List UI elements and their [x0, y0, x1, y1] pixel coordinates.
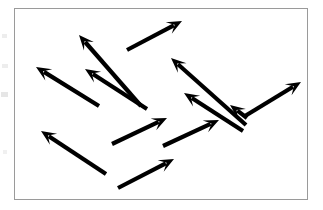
- arrow-up-right: [245, 82, 301, 116]
- arrow-shaft: [127, 25, 174, 50]
- arrow-shaft: [49, 136, 106, 174]
- arrow-shaft: [245, 87, 293, 116]
- arrow-up-right: [127, 21, 182, 50]
- arrow-shaft: [112, 122, 159, 144]
- arrow-shaft: [163, 124, 211, 146]
- arrow-up-left: [171, 58, 246, 125]
- arrow-up-right: [112, 118, 167, 144]
- arrow-up-left: [41, 131, 106, 174]
- arrow-up-right: [163, 120, 219, 146]
- arrow-field-canvas: [0, 0, 323, 210]
- figure-root: [0, 0, 323, 210]
- arrow-shaft: [118, 163, 166, 188]
- arrow-up-right: [118, 159, 174, 188]
